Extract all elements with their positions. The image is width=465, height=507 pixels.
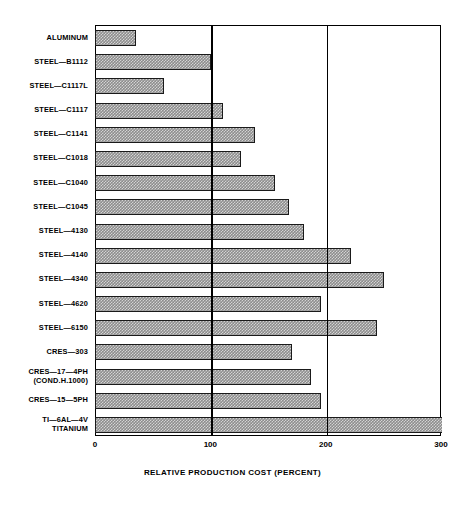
category-label: TI—6AL—4VTITANIUM — [0, 415, 88, 433]
category-label-text: STEEL—C1117L — [30, 81, 89, 90]
category-label-text: ALUMINUM — [47, 33, 88, 42]
category-label: CRES—303 — [0, 347, 88, 356]
bar-row — [96, 30, 442, 46]
bar-row — [96, 272, 442, 288]
bar — [95, 344, 292, 360]
bar — [95, 54, 211, 70]
category-label: STEEL—6150 — [0, 323, 88, 332]
category-label: STEEL—B1112 — [0, 57, 88, 66]
category-label: STEEL—C1117 — [0, 105, 88, 114]
category-label: CRES—17—4PH(COND.H.1000) — [0, 367, 88, 385]
category-label-sub: (COND.H.1000) — [0, 376, 88, 385]
bar-row — [96, 369, 442, 385]
gridline-200 — [327, 26, 328, 435]
bar-row — [96, 320, 442, 336]
bar — [95, 151, 241, 167]
bar — [95, 103, 223, 119]
category-label-text: STEEL—C1018 — [33, 153, 88, 162]
bar-row — [96, 78, 442, 94]
category-label: STEEL—C1040 — [0, 178, 88, 187]
bar-chart: ALUMINUMSTEEL—B1112STEEL—C1117LSTEEL—C11… — [0, 0, 465, 507]
bar — [95, 78, 164, 94]
bar-row — [96, 296, 442, 312]
category-label-sub: TITANIUM — [0, 424, 88, 433]
category-label-text: STEEL—4340 — [39, 274, 88, 283]
bar-row — [96, 393, 442, 409]
x-tick-label: 100 — [204, 440, 217, 449]
bar-row — [96, 248, 442, 264]
category-label-text: CRES—15—5PH — [28, 395, 88, 404]
bar — [95, 393, 321, 409]
category-label: CRES—15—5PH — [0, 395, 88, 404]
bar — [95, 296, 321, 312]
category-label: STEEL—4620 — [0, 299, 88, 308]
bar — [95, 175, 275, 191]
bar-rows — [96, 26, 440, 435]
category-label-text: STEEL—4130 — [39, 226, 88, 235]
bar — [95, 320, 377, 336]
bar — [95, 224, 304, 240]
bar — [95, 30, 136, 46]
category-label: STEEL—C1117L — [0, 81, 88, 90]
x-tick-label: 300 — [434, 440, 447, 449]
category-label-text: CRES—17—4PH — [28, 367, 88, 376]
category-label-text: STEEL—6150 — [39, 323, 88, 332]
x-tick-label: 200 — [319, 440, 332, 449]
bar — [95, 199, 289, 215]
bar-row — [96, 103, 442, 119]
bar-row — [96, 224, 442, 240]
x-tick-label: 0 — [93, 440, 97, 449]
bar — [95, 272, 384, 288]
plot-area — [95, 25, 441, 436]
category-label: STEEL—C1018 — [0, 153, 88, 162]
gridline-100 — [211, 26, 212, 435]
category-label-text: CRES—303 — [47, 347, 88, 356]
category-label-text: STEEL—C1141 — [34, 129, 88, 138]
category-label-text: STEEL—B1112 — [34, 57, 88, 66]
category-label: STEEL—4340 — [0, 274, 88, 283]
bar-row — [96, 151, 442, 167]
bar-row — [96, 54, 442, 70]
bar — [95, 369, 311, 385]
bar-row — [96, 127, 442, 143]
category-label: ALUMINUM — [0, 33, 88, 42]
bar-row — [96, 175, 442, 191]
category-label: STEEL—C1141 — [0, 129, 88, 138]
category-axis-labels: ALUMINUMSTEEL—B1112STEEL—C1117LSTEEL—C11… — [0, 25, 88, 436]
bar-row — [96, 417, 442, 433]
category-label: STEEL—4140 — [0, 250, 88, 259]
category-label-text: STEEL—4140 — [39, 250, 88, 259]
category-label-text: STEEL—C1117 — [34, 105, 88, 114]
bar-row — [96, 344, 442, 360]
bar — [95, 127, 255, 143]
bar-row — [96, 199, 442, 215]
category-label-text: TI—6AL—4V — [42, 415, 88, 424]
category-label: STEEL—4130 — [0, 226, 88, 235]
bar — [95, 417, 442, 433]
x-axis-title: RELATIVE PRODUCTION COST (PERCENT) — [0, 468, 465, 477]
category-label-text: STEEL—4620 — [39, 299, 88, 308]
bar — [95, 248, 351, 264]
category-label: STEEL—C1045 — [0, 202, 88, 211]
x-axis-ticks: 0100200300 — [0, 440, 465, 454]
category-label-text: STEEL—C1040 — [33, 178, 88, 187]
category-label-text: STEEL—C1045 — [33, 202, 88, 211]
